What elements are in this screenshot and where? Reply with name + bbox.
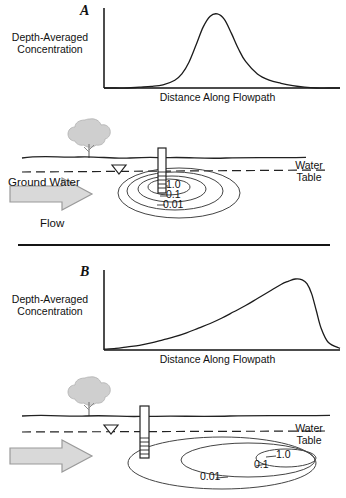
panel-b-contour-label-3: 0.01 [200,471,220,483]
monitoring-well-icon [158,148,166,193]
tree-icon [68,377,110,416]
groundwater-flow-label-line2: Flow [40,217,64,230]
panel-b-water-table-label-line1: Water [281,423,337,435]
panel-a: A Depth-Averaged Concentration Distance … [0,0,346,245]
groundwater-flow-label-line1: Ground Water [8,176,80,189]
water-table-triangle-icon [104,425,118,434]
panel-b-water-table-label: Water Table [281,423,337,447]
panel-b-water-table-label-line2: Table [281,435,337,447]
panel-divider [18,244,330,246]
panel-a-water-table-label-line1: Water [281,160,337,172]
panel-b-contour-label-1: 1.0 [276,449,291,461]
panel-b-axes [104,270,340,350]
panel-b-plot [0,262,346,372]
panel-a-water-table-label: Water Table [281,160,337,184]
tree-icon [68,119,110,158]
monitoring-well-icon [140,406,149,458]
panel-a-curve [104,14,340,88]
panel-b: B Depth-Averaged Concentration Distance … [0,250,346,498]
flow-arrow-icon [10,440,92,472]
panel-a-axes [104,8,340,88]
panel-a-contour-label-3: 0.01 [163,199,183,211]
panel-a-plot [0,0,346,110]
panel-b-contour-label-2: 0.1 [254,459,269,471]
panel-a-water-table-label-line2: Table [281,172,337,184]
panel-b-curve [104,279,340,349]
ground-surface-line [22,415,330,416]
water-table-triangle-icon [112,165,126,174]
